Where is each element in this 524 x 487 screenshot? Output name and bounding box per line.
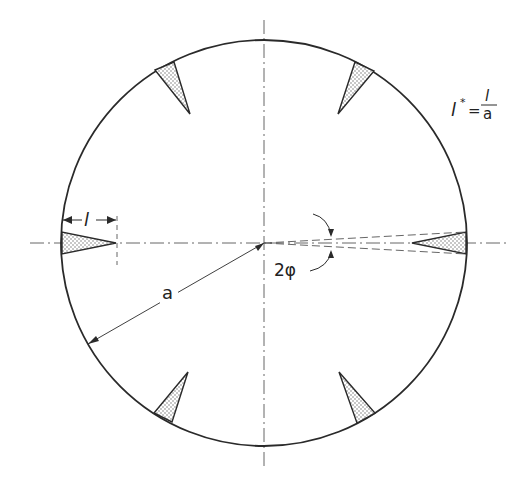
angle-label: 2φ — [274, 260, 296, 280]
notch-lower-right — [339, 372, 375, 423]
notch-lower-left — [154, 372, 188, 422]
arrowhead-icon — [63, 216, 72, 224]
notch-upper-right — [338, 62, 374, 114]
arrowhead-icon — [255, 243, 264, 251]
notched-disk-diagram: l a 2φ l * = l a — [0, 0, 524, 487]
arrowhead-icon — [328, 250, 334, 258]
arrowhead-icon — [88, 336, 99, 344]
angle-arrow-bottom — [310, 252, 331, 271]
notch-left — [62, 232, 116, 254]
arrowhead-icon — [328, 229, 334, 237]
notch-right — [412, 232, 466, 254]
notch-upper-left — [155, 62, 190, 114]
arrowhead-icon — [107, 216, 116, 224]
radius-label: a — [162, 282, 173, 303]
angle-arrow-top — [313, 214, 331, 235]
crack-length-label: l — [84, 209, 89, 230]
formula-star: * — [460, 96, 466, 109]
formula-denominator: a — [483, 105, 492, 123]
formula-equals: = — [468, 102, 481, 120]
formula-numerator: l — [485, 87, 490, 105]
formula-lhs: l — [451, 99, 456, 120]
